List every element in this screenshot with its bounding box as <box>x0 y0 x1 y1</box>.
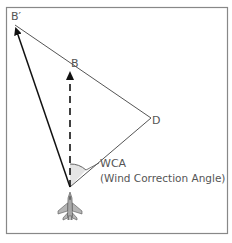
label-b-prime: B′ <box>11 10 22 23</box>
label-d: D <box>152 114 160 127</box>
wca-leader-line <box>86 163 99 170</box>
arrowhead-b <box>66 71 74 80</box>
arrow-origin-to-bprime <box>16 29 70 187</box>
label-wca: WCA <box>100 157 127 170</box>
fighter-jet-top-view-icon <box>58 192 82 220</box>
label-b: B <box>71 57 79 70</box>
line-bprime-to-d <box>15 25 151 118</box>
diagram-canvas: B′ B D WCA (Wind Correction Angle) <box>0 0 232 243</box>
wind-correction-diagram: B′ B D WCA (Wind Correction Angle) <box>0 0 232 243</box>
label-wca-full: (Wind Correction Angle) <box>100 172 225 184</box>
